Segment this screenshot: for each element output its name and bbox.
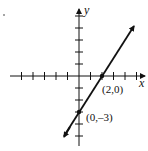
graph-line-lower-arrow (64, 127, 70, 137)
label-y-intercept: (0,–3) (86, 111, 113, 124)
label-x-intercept: (2,0) (102, 83, 123, 96)
x-axis-label: x (138, 76, 145, 90)
y-axis-label: y (83, 3, 90, 17)
coordinate-graph: y x (2,0) (0,–3) (0, 0, 148, 151)
stray-dot (3, 14, 5, 16)
point-y-intercept (77, 110, 81, 114)
point-x-intercept (100, 74, 104, 78)
